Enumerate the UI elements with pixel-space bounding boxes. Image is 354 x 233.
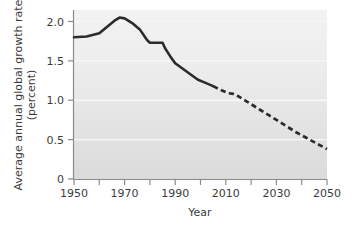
- y-axis-title-line1: Average annual global growth rate: [12, 0, 25, 190]
- plot-area-background: [74, 10, 327, 179]
- x-tick-label-2030: 2030: [262, 187, 290, 200]
- y-tick-label-3: 1.5: [47, 55, 65, 68]
- growth-rate-line-chart: 2.0 1.5 1.0 0.5 0 1950 1970 1990 2010 20…: [0, 0, 354, 233]
- y-axis-title-line2: (percent): [25, 70, 38, 121]
- x-tick-label-1990: 1990: [161, 187, 189, 200]
- x-tick-labels: 1950 1970 1990 2010 2030 2050: [60, 187, 341, 200]
- x-tick-label-2010: 2010: [212, 187, 240, 200]
- x-axis-ticks: [74, 180, 327, 186]
- chart-figure: 2.0 1.5 1.0 0.5 0 1950 1970 1990 2010 20…: [0, 0, 354, 233]
- y-tick-label-0: 0: [57, 173, 64, 186]
- y-tick-label-1: 0.5: [47, 134, 65, 147]
- y-tick-label-4: 2.0: [47, 16, 65, 29]
- x-tick-label-1970: 1970: [111, 187, 139, 200]
- y-tick-label-2: 1.0: [47, 94, 65, 107]
- y-axis-ticks: [68, 22, 74, 180]
- x-tick-label-2050: 2050: [313, 187, 341, 200]
- x-axis-title: Year: [187, 206, 212, 219]
- y-tick-labels: 2.0 1.5 1.0 0.5 0: [47, 16, 65, 187]
- x-tick-label-1950: 1950: [60, 187, 88, 200]
